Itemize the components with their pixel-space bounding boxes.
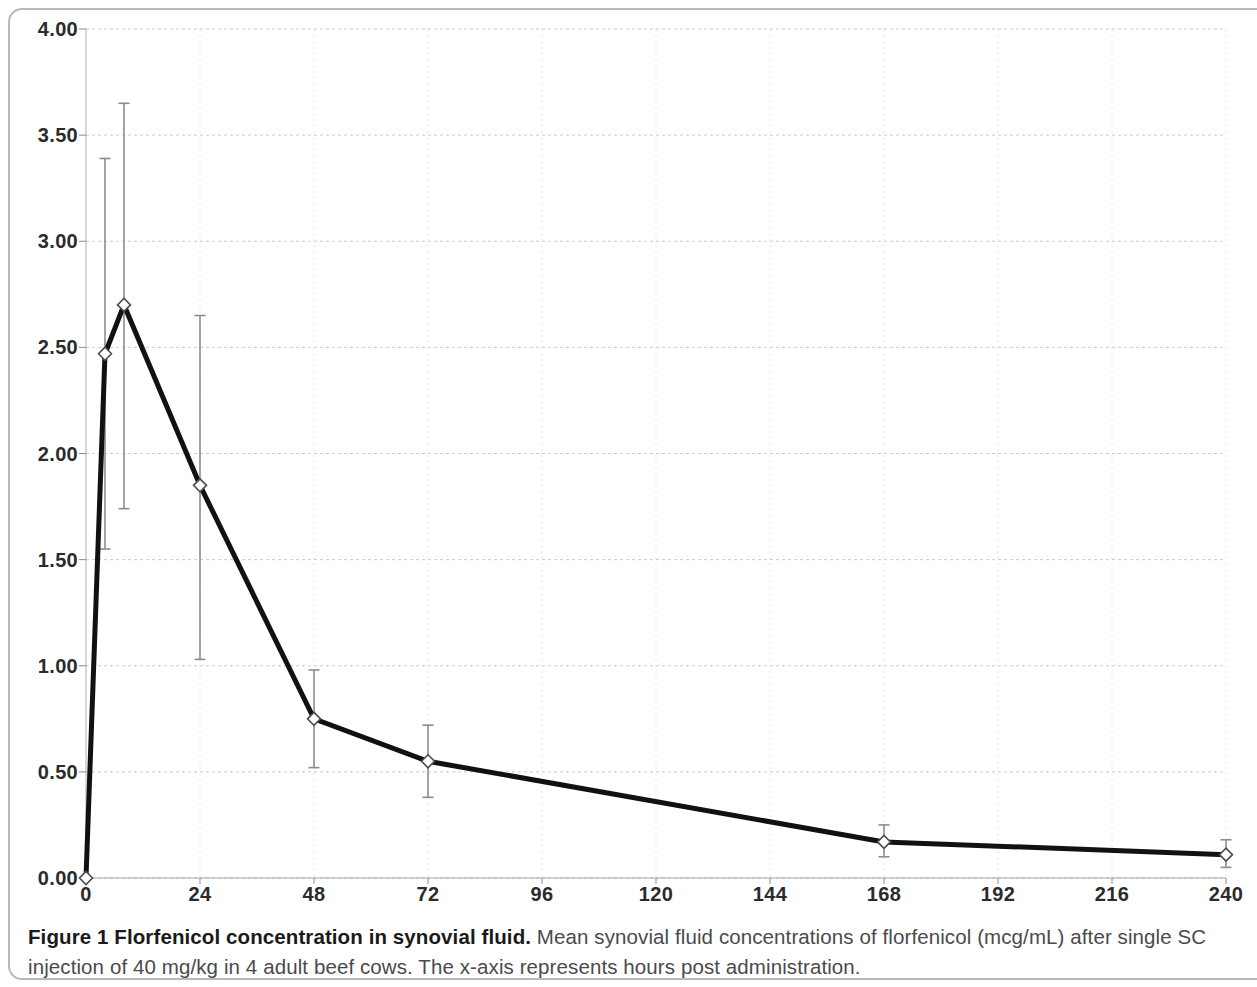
x-tick-label: 216	[1095, 884, 1129, 904]
data-point-marker	[99, 347, 112, 360]
error-bars	[100, 103, 1232, 867]
data-point-marker	[1220, 848, 1233, 861]
data-point-marker	[878, 835, 891, 848]
chart-plot-area: 0.000.501.001.502.002.503.003.504.00 024…	[0, 0, 1257, 900]
data-point-marker	[422, 755, 435, 768]
x-tick-label: 24	[189, 884, 212, 904]
y-tick-label: 1.00	[38, 656, 78, 676]
x-tick-label: 0	[80, 884, 91, 904]
x-tick-label: 192	[981, 884, 1015, 904]
y-tick-label: 2.00	[38, 444, 78, 464]
caption-title: Figure 1 Florfenicol concentration in sy…	[28, 925, 531, 948]
x-tick-label: 48	[303, 884, 326, 904]
y-axis-tick-labels: 0.000.501.001.502.002.503.003.504.00	[0, 0, 78, 900]
y-tick-label: 3.50	[38, 125, 78, 145]
x-tick-label: 144	[753, 884, 787, 904]
x-tick-label: 96	[531, 884, 554, 904]
line-chart	[0, 0, 1257, 900]
axis-lines	[79, 29, 1226, 884]
y-tick-label: 1.50	[38, 550, 78, 570]
x-tick-label: 168	[867, 884, 901, 904]
y-tick-label: 4.00	[38, 19, 78, 39]
y-tick-label: 2.50	[38, 337, 78, 357]
x-tick-label: 240	[1209, 884, 1243, 904]
x-tick-label: 72	[417, 884, 440, 904]
figure-caption: Figure 1 Florfenicol concentration in sy…	[28, 922, 1233, 981]
y-tick-label: 3.00	[38, 231, 78, 251]
y-tick-label: 0.50	[38, 762, 78, 782]
x-tick-label: 120	[639, 884, 673, 904]
x-axis-tick-labels: 024487296120144168192216240	[0, 884, 1257, 918]
